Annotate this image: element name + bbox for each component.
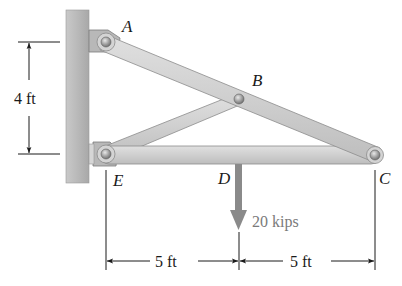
label-A: A	[121, 17, 133, 36]
pin-B	[234, 94, 244, 104]
label-B: B	[252, 71, 263, 90]
pin-E	[101, 149, 111, 159]
label-C: C	[379, 169, 391, 188]
load-label: 20 kips	[252, 213, 299, 231]
bracket-E-bolts	[89, 144, 94, 164]
label-E: E	[112, 171, 124, 190]
pin-C	[370, 150, 380, 160]
member-EC	[100, 146, 380, 164]
load-arrow	[230, 164, 247, 230]
pin-A	[101, 37, 111, 47]
truss-diagram: A B E D C 20 kips 4 ft 5 ft 5 ft	[0, 0, 402, 286]
dimension-DC-label: 5 ft	[290, 253, 312, 270]
dimension-vertical-label: 4 ft	[14, 90, 36, 107]
label-D: D	[217, 169, 231, 188]
wall	[66, 10, 89, 183]
dimension-ED-label: 5 ft	[155, 253, 177, 270]
